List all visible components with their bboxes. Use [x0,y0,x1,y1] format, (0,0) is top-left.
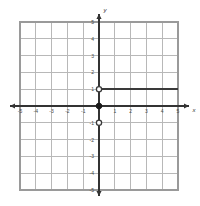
y-tick-label: -5 [90,187,95,193]
x-tick-label: 2 [129,108,132,114]
open-point-0-neg1 [96,120,101,125]
y-tick-label: 4 [91,36,94,42]
y-tick-label: 5 [91,19,94,25]
y-tick-label: 1 [91,86,94,92]
x-tick-label: -1 [81,108,86,114]
x-tick-label: 3 [145,108,148,114]
y-tick-label: 2 [91,69,94,75]
y-axis-label: y [103,7,108,13]
y-axis-arrow-icon [96,14,101,19]
x-tick-label: 4 [161,108,164,114]
x-tick-label: -5 [18,108,23,114]
y-tick-label: -4 [90,170,95,176]
x-tick-label: 5 [177,108,180,114]
coordinate-plane-svg: -5 -4 -3 -2 -1 1 2 3 4 5 5 4 3 2 1 -1 -2… [0,0,200,206]
y-tick-label: 3 [91,53,94,59]
x-axis-label: x [192,107,197,113]
x-tick-label: 1 [113,108,116,114]
y-tick-label: -1 [90,120,95,126]
x-axis-arrow-icon [184,103,189,108]
y-axis-arrow-down-icon [96,191,101,196]
x-tick-label: -3 [49,108,54,114]
x-tick-label: -4 [34,108,39,114]
open-point-0-1 [96,87,101,92]
x-axis-arrow-left-icon [10,103,15,108]
closed-point-origin [96,103,102,109]
y-tick-label: -3 [90,153,95,159]
plotted-points [96,87,102,126]
y-tick-label: -2 [90,137,95,143]
x-tick-label: -2 [65,108,70,114]
coordinate-plane-figure: -5 -4 -3 -2 -1 1 2 3 4 5 5 4 3 2 1 -1 -2… [0,0,200,206]
